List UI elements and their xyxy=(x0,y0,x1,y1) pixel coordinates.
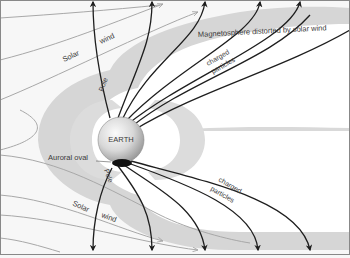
auroral-oval-label: Auroral oval xyxy=(48,153,88,162)
diagram-canvas: EARTH Auroral oval Pole Pole Solar wind … xyxy=(0,0,350,258)
earth-label: EARTH xyxy=(108,135,133,144)
auroral-oval-shape xyxy=(112,159,132,167)
belt-gap-right xyxy=(145,118,171,162)
magnetosphere-diagram: EARTH Auroral oval Pole Pole Solar wind … xyxy=(0,0,350,258)
